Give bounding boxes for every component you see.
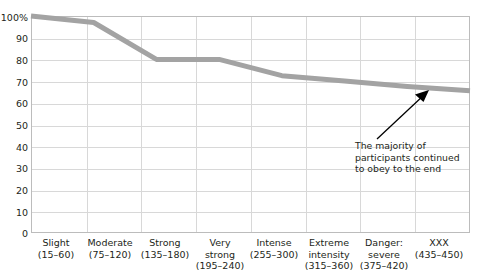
x-tick-range: (195–240) (181, 260, 259, 272)
annotation-arrow (377, 90, 429, 139)
data-line (31, 16, 470, 91)
x-tick-name: XXX (400, 237, 478, 249)
x-tick-label-xxx: XXX (435–450) (400, 237, 478, 260)
chart-annotation-text: The majority of participants continued t… (355, 140, 475, 175)
x-tick-range: (375–420) (345, 260, 423, 272)
annotation-line-1: The majority of (355, 140, 475, 152)
chart-container: 100% 90 80 70 60 50 40 30 20 10 0 (0, 0, 495, 279)
annotation-line-3: to obey to the end (355, 163, 475, 175)
x-tick-range: (435–450) (400, 249, 478, 261)
annotation-line-2: participants continued (355, 152, 475, 164)
